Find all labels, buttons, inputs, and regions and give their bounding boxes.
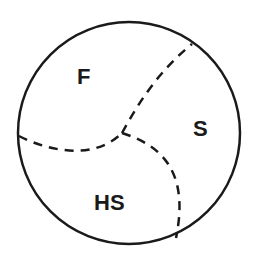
boundary-s-hs xyxy=(122,133,180,238)
boundary-f-hs xyxy=(19,133,122,151)
diagram-canvas: F S HS xyxy=(0,0,253,264)
boundary-f-s xyxy=(122,44,192,133)
region-label-s: S xyxy=(193,116,208,141)
region-label-hs: HS xyxy=(94,190,125,215)
region-label-f: F xyxy=(77,64,90,89)
